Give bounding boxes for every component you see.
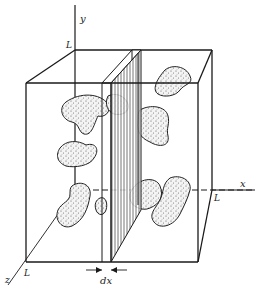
particle: [95, 198, 107, 215]
y-axis-label: y: [79, 13, 86, 24]
corner-label-bottom: L: [23, 268, 30, 278]
dx-label: dx: [100, 275, 112, 286]
slab-dx: [102, 50, 141, 262]
corner-label-right: L: [213, 193, 220, 203]
particle: [155, 67, 191, 96]
corner-label-top: L: [65, 40, 72, 50]
cube-slab-diagram: y x z L L L dx: [0, 0, 262, 291]
z-axis-label: z: [4, 275, 10, 285]
particle: [138, 107, 169, 146]
dx-dimension: [86, 267, 127, 273]
particle: [57, 183, 90, 227]
x-axis-label: x: [240, 178, 246, 189]
particle: [58, 142, 97, 167]
